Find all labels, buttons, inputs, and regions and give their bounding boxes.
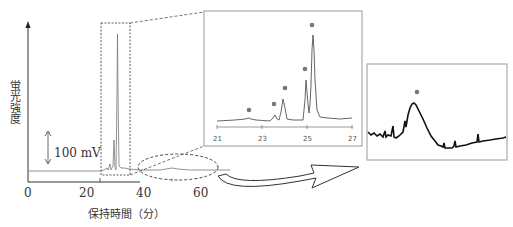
right-panel (367, 64, 507, 160)
inset-tick-25: 25 (303, 135, 312, 143)
scale-bar-icon (45, 131, 51, 164)
zoom-box (101, 23, 130, 175)
chromatogram-figure (0, 0, 513, 227)
scale-label: 100 mV (54, 146, 101, 160)
inset-panel (204, 11, 362, 146)
curved-arrow-icon (218, 165, 359, 188)
x-tick-40: 40 (136, 186, 151, 200)
x-tick-0: 0 (24, 186, 32, 200)
inset-tick-23: 23 (258, 135, 267, 143)
y-axis-label: 蛍光強度 (4, 80, 20, 124)
x-tick-20: 20 (79, 186, 94, 200)
x-axis-label: 保持時間（分） (88, 205, 165, 221)
inset-tick-27: 27 (348, 135, 357, 143)
inset-tick-21: 21 (213, 135, 222, 143)
x-tick-60: 60 (193, 186, 208, 200)
